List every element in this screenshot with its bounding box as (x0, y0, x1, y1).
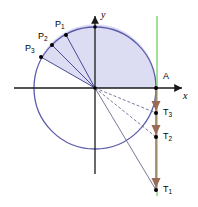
label-P2-subscript: 2 (44, 35, 48, 42)
label-A-letter: A (163, 71, 169, 81)
arrow-to-T2-icon (152, 125, 161, 135)
label-T2-subscript: 2 (169, 135, 173, 142)
y-axis-label: y (101, 10, 105, 20)
label-T1-letter: T (163, 184, 169, 194)
label-T2-letter: T (163, 131, 169, 141)
label-T1-subscript: 1 (169, 188, 173, 195)
ray-to-T1 (95, 88, 156, 190)
label-P2: P2 (38, 32, 48, 41)
ray-to-T3 (95, 88, 156, 113)
label-T3-subscript: 3 (169, 111, 173, 118)
point-dot-P2 (50, 43, 54, 47)
arrow-to-T1-icon (152, 178, 161, 188)
point-dot-T3 (154, 111, 158, 115)
point-dot-T1 (154, 188, 158, 192)
geometry-figure: P1 P2 P3 A T3 T2 T1 y x (0, 0, 198, 207)
label-T1: T1 (163, 185, 172, 194)
label-T3: T3 (163, 108, 172, 117)
shaded-sector (41, 24, 156, 88)
ray-to-T2 (95, 88, 156, 137)
point-dot-P1 (64, 33, 68, 37)
label-T2: T2 (163, 132, 172, 141)
point-dot-P3 (39, 55, 43, 59)
label-T3-letter: T (163, 107, 169, 117)
point-dot-A (154, 86, 158, 90)
label-A: A (163, 72, 169, 81)
point-dot-origin (93, 86, 97, 90)
label-P1-subscript: 1 (61, 23, 65, 30)
label-P3-subscript: 3 (31, 47, 35, 54)
point-dot-top (93, 25, 97, 29)
label-P1: P1 (55, 20, 65, 29)
label-P3: P3 (25, 44, 35, 53)
figure-canvas (0, 0, 198, 207)
point-dot-T2 (154, 135, 158, 139)
x-axis-label: x (183, 91, 187, 101)
